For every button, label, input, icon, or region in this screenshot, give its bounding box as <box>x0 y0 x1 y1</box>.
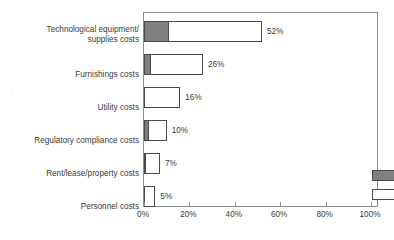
stray-artifact: ' <box>12 88 13 95</box>
bar-value-label: 5% <box>160 191 172 202</box>
x-axis-tick-label: 60% <box>271 210 287 220</box>
bar-segment-significantly-higher <box>144 21 169 42</box>
bar-chart: ' Technological equipment/ supplies cost… <box>0 0 394 240</box>
category-label-utility: Utility costs <box>9 103 139 113</box>
x-axis-tick-label: 20% <box>180 210 196 220</box>
x-axis-tick-label: 0% <box>137 210 149 220</box>
category-label-technological-equipment: Technological equipment/ supplies costs <box>9 25 139 45</box>
category-label-furnishings: Furnishings costs <box>9 70 139 80</box>
legend-item-significantly-higher: Significantly higher <box>372 167 394 183</box>
legend-item-somewhat-higher: Somewhat higher <box>372 186 394 202</box>
category-label-personnel: Personnel costs <box>9 202 139 212</box>
bar-segment-somewhat-higher <box>144 87 180 108</box>
x-axis-tick <box>189 202 190 206</box>
x-axis-tick <box>326 202 327 206</box>
legend: Significantly higher Somewhat higher <box>372 167 394 205</box>
category-label-rent-lease-property: Rent/lease/property costs <box>9 169 139 179</box>
x-axis-tick <box>144 202 145 206</box>
legend-swatch-icon <box>372 189 394 200</box>
bar-segment-somewhat-higher <box>144 186 155 207</box>
bar-value-label: 10% <box>172 125 188 136</box>
bar-value-label: 16% <box>185 92 201 103</box>
category-label-regulatory-compliance: Regulatory compliance costs <box>9 136 139 146</box>
bar-value-label: 52% <box>267 26 283 37</box>
x-axis-tick <box>280 202 281 206</box>
x-axis-tick-label: 40% <box>226 210 242 220</box>
x-axis-tick-label: 100% <box>360 210 381 220</box>
plot-area: 52% 26% 16% 10% 7% 5% Significantly high… <box>143 12 378 207</box>
x-axis-tick-label: 80% <box>316 210 332 220</box>
bar-segment-somewhat-higher <box>148 120 167 141</box>
bar-value-label: 26% <box>208 59 224 70</box>
bar-segment-somewhat-higher <box>150 54 203 75</box>
x-axis-tick <box>235 202 236 206</box>
bar-value-label: 7% <box>165 158 177 169</box>
bar-segment-somewhat-higher <box>145 153 160 174</box>
legend-swatch-icon <box>372 170 394 181</box>
bar-segment-somewhat-higher <box>168 21 262 42</box>
